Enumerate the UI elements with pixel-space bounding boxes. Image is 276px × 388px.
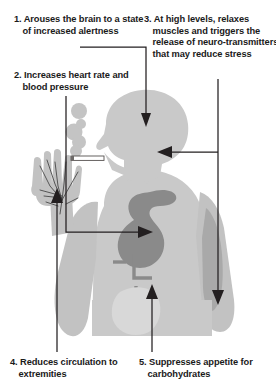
head-profile-shape: [96, 90, 188, 182]
smoke-puff: [76, 119, 86, 129]
callout-4-reduces-circulation: 4. Reduces circulation to extremities: [10, 357, 145, 380]
callout-5-suppresses-appetite: 5. Suppresses appetite for carbohydrates: [139, 357, 276, 380]
smoke-puff: [70, 145, 82, 157]
smoke-puff: [71, 103, 87, 119]
callout-2-heart-rate: 2. Increases heart rate and blood pressu…: [14, 70, 145, 93]
callout-1-arouses-brain: 1. Arouses the brain to a state of incre…: [14, 14, 145, 37]
callout-3-relaxes-muscles: 3. At high levels, relaxes muscles and t…: [144, 14, 276, 60]
smoke-group: [66, 103, 88, 157]
nicotine-effects-figure: 1. Arouses the brain to a state of incre…: [0, 0, 276, 388]
cigarette-shape: [71, 156, 104, 160]
